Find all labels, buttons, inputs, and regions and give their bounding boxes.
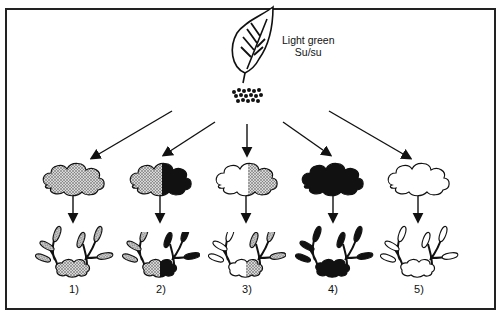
plant-white (379, 225, 458, 277)
plant-half-dotted-black (121, 225, 200, 277)
seeds-icon (232, 88, 263, 103)
down-arrows (73, 196, 418, 221)
cloud-half-dotted-black (130, 163, 191, 195)
cloud-black (302, 163, 363, 195)
plant-half-white-dotted (207, 225, 286, 277)
parent-phenotype: Light green (282, 34, 335, 46)
plant-black (294, 225, 373, 277)
offspring-label-3: 3) (237, 283, 257, 295)
offspring-label-1: 1) (64, 283, 84, 295)
leaf-icon (232, 7, 273, 83)
genetics-diagram (0, 0, 499, 314)
offspring-label-2: 2) (151, 283, 171, 295)
arrows (92, 111, 410, 158)
cloud-half-white-dotted (216, 163, 277, 195)
offspring-label-4: 4) (323, 283, 343, 295)
parent-genotype: Su/su (282, 46, 335, 58)
cloud-white (388, 163, 449, 195)
parent-label: Light green Su/su (282, 34, 335, 58)
cloud-dotted (43, 163, 104, 195)
plant-dotted (34, 225, 113, 277)
offspring-label-5: 5) (409, 283, 429, 295)
